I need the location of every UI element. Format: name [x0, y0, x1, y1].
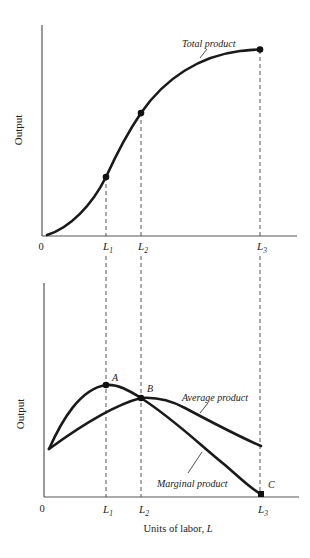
- bottom-tick-l1: L1: [102, 503, 113, 518]
- tp-point-l3: [257, 46, 264, 53]
- bottom-y-axis-label: Output: [14, 399, 26, 430]
- top-origin-label: 0: [38, 241, 43, 252]
- point-b-label: B: [147, 383, 153, 394]
- bottom-x-axis-label: Units of labor, L: [144, 523, 213, 534]
- figure-svg: Output 0 L1 L2 L3 Total product Output 0: [0, 0, 310, 558]
- bottom-tick-l3: L3: [257, 503, 268, 518]
- average-product-label: Average product: [181, 392, 248, 403]
- point-b: [138, 395, 145, 402]
- bottom-tick-l2: L2: [138, 503, 149, 518]
- point-c-label: C: [268, 479, 275, 490]
- average-product-leader: [200, 403, 208, 413]
- top-tick-l2: L2: [137, 240, 148, 255]
- top-tick-l3: L3: [256, 240, 267, 255]
- top-y-axis-label: Output: [12, 115, 24, 146]
- point-a-label: A: [111, 372, 119, 383]
- total-product-chart: Output 0 L1 L2 L3 Total product: [12, 25, 297, 255]
- total-product-leader: [200, 49, 207, 58]
- tp-point-l2: [138, 110, 145, 117]
- average-marginal-product-chart: Output 0 A B C Average product Marginal …: [14, 283, 299, 534]
- total-product-curve: [47, 50, 260, 236]
- point-a: [103, 382, 110, 389]
- marginal-product-label: Marginal product: [156, 478, 228, 489]
- marginal-product-leader: [188, 452, 202, 473]
- total-product-label: Total product: [182, 38, 236, 49]
- point-c: [258, 491, 264, 497]
- tp-point-l1: [103, 174, 110, 181]
- production-curves-figure: Output 0 L1 L2 L3 Total product Output 0: [0, 0, 310, 558]
- top-tick-l1: L1: [102, 240, 113, 255]
- average-product-curve: [49, 398, 261, 449]
- bottom-origin-label: 0: [39, 503, 44, 514]
- connecting-guides: [106, 256, 260, 497]
